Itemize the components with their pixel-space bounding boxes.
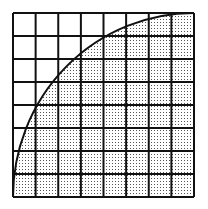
quarter-circle-grid-diagram: [0, 0, 208, 209]
